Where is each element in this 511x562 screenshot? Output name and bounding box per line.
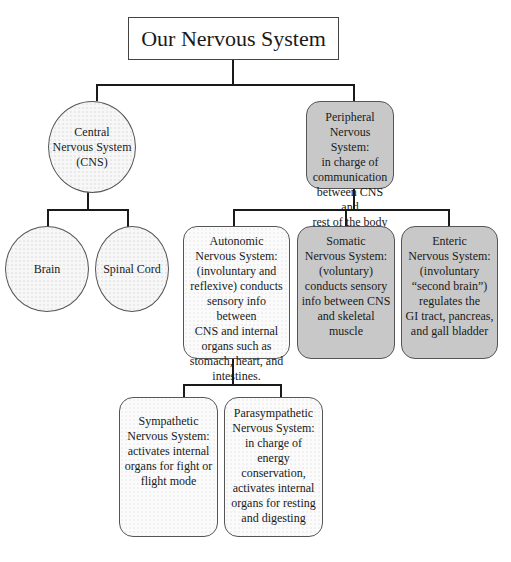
connector-to-autonomic	[233, 209, 235, 227]
connector-level3-horizontal	[183, 384, 282, 386]
connector-to-sympathetic	[183, 384, 185, 398]
node-enteric-label: Enteric Nervous System: (involuntary “se…	[406, 234, 494, 339]
node-somatic-nervous-system: Somatic Nervous System: (voluntary) cond…	[297, 226, 395, 359]
node-peripheral-label: Peripheral Nervous System: in charge of …	[310, 110, 390, 230]
node-somatic-label: Somatic Nervous System: (voluntary) cond…	[302, 234, 391, 339]
node-brain-label: Brain	[34, 262, 61, 277]
connector-to-parasympathetic	[280, 384, 282, 398]
node-autonomic-nervous-system: Autonomic Nervous System: (involuntary a…	[183, 226, 290, 359]
node-enteric-nervous-system: Enteric Nervous System: (involuntary “se…	[401, 226, 498, 359]
connector-to-enteric	[448, 209, 450, 227]
diagram-title-text: Our Nervous System	[141, 26, 326, 52]
node-autonomic-label: Autonomic Nervous System: (involuntary a…	[187, 234, 286, 384]
connector-to-peripheral	[353, 84, 355, 102]
connector-level1-horizontal	[96, 84, 355, 86]
connector-to-cns	[96, 84, 98, 101]
node-sympathetic-nervous-system: Sympathetic Nervous System: activates in…	[119, 397, 218, 537]
node-parasympathetic-nervous-system: Parasympathetic Nervous System: in charg…	[224, 397, 323, 537]
connector-title-down	[232, 59, 234, 85]
node-parasympathetic-label: Parasympathetic Nervous System: in charg…	[228, 406, 319, 526]
node-spinal-cord-label: Spinal Cord	[103, 262, 161, 277]
node-cns-label: Central Nervous System (CNS)	[53, 125, 132, 170]
node-peripheral-nervous-system: Peripheral Nervous System: in charge of …	[306, 101, 394, 189]
connector-cns-down	[87, 192, 89, 210]
node-sympathetic-label: Sympathetic Nervous System: activates in…	[125, 414, 212, 489]
node-brain: Brain	[5, 226, 89, 312]
node-central-nervous-system: Central Nervous System (CNS)	[48, 101, 136, 193]
diagram-title: Our Nervous System	[128, 17, 339, 60]
connector-cns-horizontal	[47, 209, 129, 211]
node-spinal-cord: Spinal Cord	[95, 226, 169, 312]
